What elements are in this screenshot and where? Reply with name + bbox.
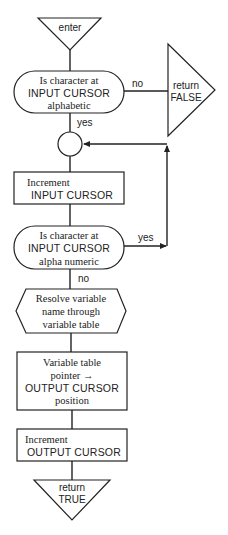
svg-text:alphabetic: alphabetic	[47, 100, 90, 111]
process-increment-input-cursor: Increment INPUT CURSOR	[14, 172, 124, 204]
decision-alpha-numeric: Is character at INPUT CURSOR alpha numer…	[14, 226, 124, 269]
svg-text:FALSE: FALSE	[170, 92, 201, 103]
enter-terminal: enter	[38, 18, 101, 50]
svg-text:name through: name through	[42, 306, 101, 317]
label-yes-1: yes	[77, 117, 93, 128]
svg-text:Is character at: Is character at	[40, 230, 99, 241]
svg-text:Increment: Increment	[25, 434, 68, 445]
process-resolve-variable: Resolve variable name through variable t…	[16, 289, 126, 333]
svg-text:Increment: Increment	[27, 177, 70, 188]
connector-circle	[58, 132, 82, 156]
return-true-terminal: return TRUE	[34, 480, 110, 520]
svg-text:position: position	[55, 395, 90, 406]
svg-text:Variable table: Variable table	[43, 357, 101, 368]
label-no-2: no	[78, 273, 90, 284]
svg-text:TRUE: TRUE	[58, 494, 86, 505]
svg-text:OUTPUT CURSOR: OUTPUT CURSOR	[25, 382, 119, 394]
process-increment-output-cursor: Increment OUTPUT CURSOR	[17, 429, 127, 461]
return-false-terminal: return FALSE	[168, 44, 215, 136]
svg-text:alpha numeric: alpha numeric	[39, 256, 99, 267]
svg-text:Resolve variable: Resolve variable	[36, 293, 107, 304]
svg-text:variable table: variable table	[43, 319, 100, 330]
svg-text:enter: enter	[59, 22, 82, 33]
label-yes-2: yes	[138, 232, 154, 243]
flowchart: enter Is character at INPUT CURSOR alpha…	[0, 0, 228, 535]
svg-text:OUTPUT CURSOR: OUTPUT CURSOR	[27, 446, 121, 458]
svg-text:Is character at: Is character at	[40, 75, 99, 86]
svg-text:INPUT CURSOR: INPUT CURSOR	[31, 189, 113, 201]
decision-alphabetic: Is character at INPUT CURSOR alphabetic	[14, 71, 124, 113]
svg-text:return: return	[173, 80, 199, 91]
svg-text:return: return	[59, 482, 85, 493]
svg-text:INPUT CURSOR: INPUT CURSOR	[28, 242, 110, 254]
svg-text:pointer →: pointer →	[51, 370, 94, 381]
svg-text:INPUT CURSOR: INPUT CURSOR	[28, 87, 110, 99]
label-no-1: no	[132, 78, 144, 89]
process-pointer-to-output-cursor: Variable table pointer → OUTPUT CURSOR p…	[17, 352, 127, 410]
